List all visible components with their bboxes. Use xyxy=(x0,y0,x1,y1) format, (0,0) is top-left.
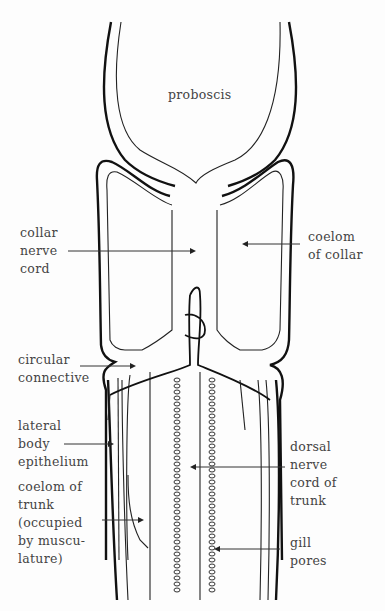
label-coelom-of-collar: coelom of collar xyxy=(308,228,363,264)
gill-pores-left xyxy=(174,378,180,592)
nerve-branch-right xyxy=(240,380,245,430)
trunk-outer-right xyxy=(276,380,279,600)
diagram-canvas: proboscis collar nerve cord coelom of co… xyxy=(0,0,385,611)
collar-nerve-cord xyxy=(110,288,270,401)
collar-inner-right xyxy=(217,171,283,350)
nerve-branch-left xyxy=(128,475,148,548)
label-gill-pores: gill pores xyxy=(290,534,327,570)
trunk-wall-right-1 xyxy=(258,380,261,600)
label-lateral-body-epithelium: lateral body epithelium xyxy=(18,417,89,471)
label-dorsal-nerve-cord-of-trunk: dorsal nerve cord of trunk xyxy=(290,438,337,510)
label-coelom-of-trunk: coelom of trunk (occupied by muscu- latu… xyxy=(18,478,85,568)
label-circular-connective: circular connective xyxy=(18,351,90,387)
trunk-wall-left-1 xyxy=(118,378,119,560)
trunk-wall-right-2 xyxy=(266,380,269,600)
label-collar-nerve-cord: collar nerve cord xyxy=(20,224,58,278)
gill-pores-right xyxy=(209,378,215,592)
proboscis-outer-wall xyxy=(104,22,296,186)
trunk-wall-left-2 xyxy=(127,375,130,560)
label-proboscis: proboscis xyxy=(168,86,232,104)
collar-inner-left xyxy=(107,172,172,350)
trunk-outer-left xyxy=(108,380,117,600)
